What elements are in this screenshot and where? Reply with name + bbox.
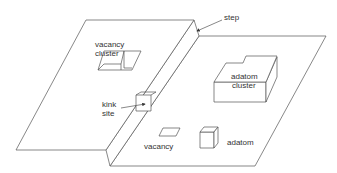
label-vacancy-cluster-1: vacancy (95, 40, 124, 49)
label-step: step (224, 13, 240, 22)
surface-defects-diagram: step vacancy cluster kink site adatom cl… (0, 0, 337, 173)
vacancy-pit (159, 128, 180, 136)
step-arrow (197, 20, 222, 31)
label-adatom-cluster-2: cluster (232, 81, 256, 90)
adatom-cube (200, 127, 218, 148)
label-vacancy: vacancy (144, 142, 173, 151)
label-adatom-cluster-1: adatom (231, 72, 258, 81)
label-kink-1: kink (102, 100, 117, 109)
label-vacancy-cluster-2: cluster (95, 49, 119, 58)
label-adatom: adatom (227, 138, 254, 147)
label-kink-2: site (102, 109, 115, 118)
